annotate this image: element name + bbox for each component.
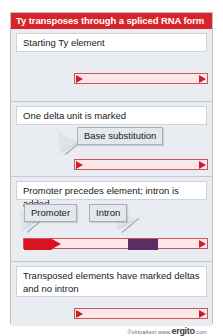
credit-brand: ergito [171,326,194,336]
credit-tld: .com [195,329,207,335]
panel-diagram [11,29,212,101]
panel-list: Starting Ty element One delta unit is ma… [11,29,212,323]
right-delta-arrow-icon [199,310,206,318]
intron-segment [128,239,158,250]
ty-element-bar [74,308,208,319]
left-delta-arrow-icon [76,75,83,83]
panel-starting-ty-element: Starting Ty element [11,29,212,101]
callout-base-substitution: Base substitution [77,127,163,145]
panel-diagram: Base substitution [11,102,212,177]
ty-element-bar [74,159,208,170]
figure-panel: Ty transposes through a spliced RNA form… [10,12,213,324]
figure-credit: ©virtualtext www.ergito.com [127,326,207,336]
promoter-segment [24,239,52,250]
panel-diagram: Promoter Intron [11,177,212,262]
right-delta-arrow-icon [199,75,206,83]
right-delta-arrow-icon [199,240,206,248]
left-delta-arrow-icon [76,310,83,318]
right-delta-arrow-icon [199,161,206,169]
ty-element-bar [74,73,208,84]
credit-copyright: ©virtualtext [127,329,156,335]
ty-element-bar-with-promoter-intron [23,238,208,249]
panel-promoter-and-intron: Promoter precedes element; intron is add… [11,176,212,262]
promoter-arrow-icon [52,239,61,249]
callout-promoter: Promoter [24,204,77,222]
credit-www: www. [158,329,172,335]
figure-title: Ty transposes through a spliced RNA form [11,13,212,29]
panel-diagram [11,262,212,326]
callout-intron: Intron [89,204,127,222]
panel-one-delta-unit-marked: One delta unit is marked Base substituti… [11,101,212,177]
panel-transposed-elements: Transposed elements have marked deltas a… [11,261,212,326]
left-delta-arrow-icon [76,161,83,169]
